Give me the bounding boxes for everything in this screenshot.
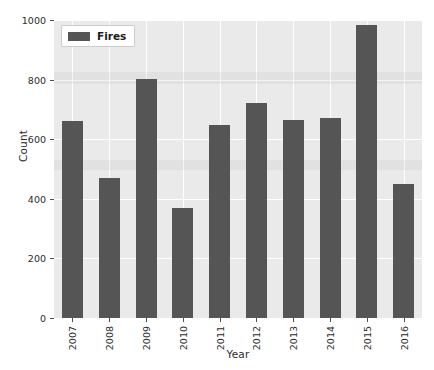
plot-area [54,20,422,318]
bar [209,125,230,318]
y-axis-label: Count [17,101,29,191]
x-tick-label: 2010 [178,326,189,350]
x-tick-mark [256,318,257,322]
bar [246,103,267,318]
x-tick-label: 2014 [325,326,336,350]
y-tick-label: 1000 [0,15,46,26]
x-tick-label: 2016 [399,326,410,350]
x-tick-mark [220,318,221,322]
bar [136,79,157,318]
y-tick-label: 400 [0,193,46,204]
x-tick-label: 2015 [362,326,373,350]
bar [283,120,304,318]
bar-chart: Count Year 02004006008001000 20072008200… [0,0,434,370]
x-tick-mark [109,318,110,322]
bar [172,208,193,318]
x-tick-label: 2013 [288,326,299,350]
bar [62,121,83,318]
legend-label-fires: Fires [97,30,126,42]
bar [356,25,377,318]
x-tick-mark [330,318,331,322]
y-tick-label: 0 [0,313,46,324]
x-tick-label: 2007 [67,326,78,350]
x-tick-mark [183,318,184,322]
legend: Fires [61,25,135,47]
y-tick-mark [50,318,54,319]
x-tick-label: 2011 [215,326,226,350]
x-tick-mark [72,318,73,322]
bar [320,118,341,318]
legend-swatch-fires [68,32,90,41]
y-tick-label: 200 [0,253,46,264]
bar [393,184,414,318]
x-tick-label: 2012 [251,326,262,350]
bar [99,178,120,318]
y-tick-label: 800 [0,74,46,85]
x-tick-mark [367,318,368,322]
x-tick-label: 2008 [104,326,115,350]
x-tick-mark [293,318,294,322]
x-tick-label: 2009 [141,326,152,350]
y-tick-label: 600 [0,134,46,145]
x-tick-mark [146,318,147,322]
x-tick-mark [404,318,405,322]
